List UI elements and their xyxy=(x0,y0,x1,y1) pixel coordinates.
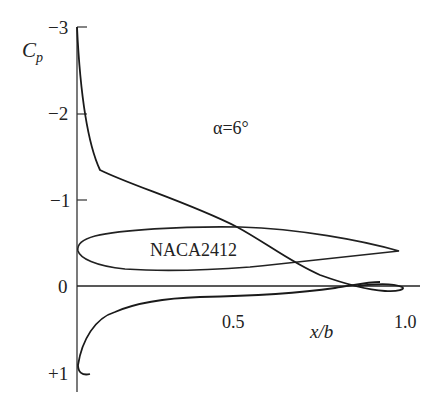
airfoil-outline xyxy=(78,227,399,271)
angle-of-attack-annotation: α=6° xyxy=(213,119,249,137)
x-tick-label-0-5: 0.5 xyxy=(222,313,245,331)
x-tick-label-1-0: 1.0 xyxy=(394,313,417,331)
y-tick-label-minus3: −3 xyxy=(48,18,68,37)
upper-surface-cp-curve xyxy=(77,27,403,291)
y-axis-label-subscript: p xyxy=(36,50,43,65)
angle-of-attack-text: α=6° xyxy=(213,118,249,138)
y-tick-label-plus1: +1 xyxy=(48,364,68,383)
y-axis-label-main: C xyxy=(22,38,36,62)
x-axis-label: x/b xyxy=(310,322,333,341)
airfoil-name-annotation: NACA2412 xyxy=(150,241,237,259)
y-axis-label: Cp xyxy=(22,40,43,65)
y-tick-label-minus2: −2 xyxy=(48,104,68,123)
y-tick-label-minus1: −1 xyxy=(50,191,70,210)
y-tick-label-0: 0 xyxy=(58,277,68,296)
